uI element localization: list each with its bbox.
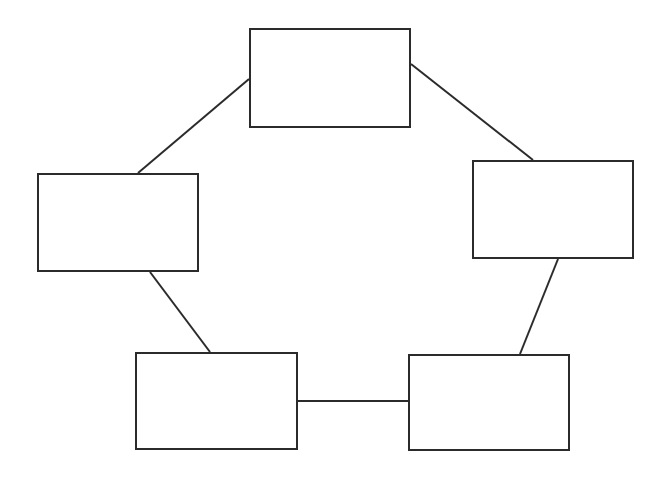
node-box-right <box>472 160 634 259</box>
connector-left-to-bottom-left <box>150 272 210 352</box>
node-box-top <box>249 28 411 128</box>
node-box-left <box>37 173 199 272</box>
connector-top-to-right <box>411 64 533 160</box>
node-box-bottom-right <box>408 354 570 451</box>
connector-right-to-bottom-right <box>520 259 558 354</box>
connector-top-to-left <box>138 79 249 173</box>
ring-diagram <box>0 0 663 477</box>
node-box-bottom-left <box>135 352 298 450</box>
